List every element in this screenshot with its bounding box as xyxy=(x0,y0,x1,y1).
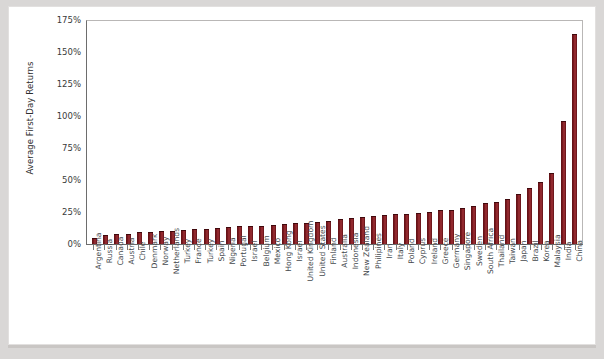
bar-slot xyxy=(524,21,535,244)
x-label-slot: Germany xyxy=(447,251,458,341)
x-label-slot: Russia xyxy=(99,251,110,341)
x-label-slot: Poland xyxy=(402,251,413,341)
bar-slot xyxy=(357,21,368,244)
bar-slot xyxy=(89,21,100,244)
bar xyxy=(393,214,398,244)
bar-slot xyxy=(468,21,479,244)
bar-slot xyxy=(390,21,401,244)
x-label-slot: Belgium xyxy=(256,251,267,341)
x-tick-label: China xyxy=(575,240,584,262)
x-label-slot: Spain xyxy=(211,251,222,341)
x-label-slot: Italy xyxy=(390,251,401,341)
chart-card: Average First-Day Returns 175%150%125%10… xyxy=(8,6,596,345)
bar-slot xyxy=(167,21,178,244)
bar-slot xyxy=(491,21,502,244)
x-label-slot: Philipines xyxy=(368,251,379,341)
bar-slot xyxy=(189,21,200,244)
bar-slot xyxy=(100,21,111,244)
x-axis-tick-labels: ArgentinaRussiaCanadaAustriaChileDenmark… xyxy=(86,251,583,341)
bar-slot xyxy=(457,21,468,244)
bar-slot xyxy=(502,21,513,244)
x-label-slot: United Kingdom xyxy=(301,251,312,341)
bar-slot xyxy=(256,21,267,244)
bar-slot xyxy=(413,21,424,244)
y-tick-label: 100% xyxy=(37,112,81,120)
x-label-slot: Taiwan xyxy=(503,251,514,341)
x-label-slot: Sweden xyxy=(469,251,480,341)
bar-slot xyxy=(268,21,279,244)
y-tick-label: 150% xyxy=(37,48,81,56)
bar-slot xyxy=(546,21,557,244)
x-label-slot: Singapore xyxy=(458,251,469,341)
bar xyxy=(549,173,554,244)
y-tick-label: 50% xyxy=(37,176,81,184)
bar-slot xyxy=(145,21,156,244)
bar-slot xyxy=(279,21,290,244)
bar-slot xyxy=(334,21,345,244)
x-label-slot: Denmark xyxy=(144,251,155,341)
x-label-slot: Israel xyxy=(290,251,301,341)
bar-slot xyxy=(424,21,435,244)
bar-slot xyxy=(379,21,390,244)
x-label-slot: Argentina xyxy=(88,251,99,341)
x-label-slot: Australia xyxy=(334,251,345,341)
bar-slot xyxy=(234,21,245,244)
bar-slot xyxy=(569,21,580,244)
bar-slot xyxy=(201,21,212,244)
bar-slot xyxy=(122,21,133,244)
x-label-slot: India xyxy=(559,251,570,341)
bar-slot xyxy=(446,21,457,244)
bar-slot xyxy=(479,21,490,244)
x-label-slot: Brazil xyxy=(525,251,536,341)
bar-slot xyxy=(212,21,223,244)
bar-slot xyxy=(513,21,524,244)
x-label-slot: China xyxy=(570,251,581,341)
y-tick-label: 0% xyxy=(37,240,81,248)
bar-slot xyxy=(368,21,379,244)
x-label-slot: France xyxy=(189,251,200,341)
bar-slot xyxy=(346,21,357,244)
bar-series xyxy=(87,21,582,244)
x-label-slot: South Africa xyxy=(480,251,491,341)
bar-slot xyxy=(323,21,334,244)
bar-slot xyxy=(111,21,122,244)
y-tick-label: 125% xyxy=(37,80,81,88)
x-label-slot: Korea xyxy=(536,251,547,341)
x-label-slot: New Zealand xyxy=(357,251,368,341)
bar-slot xyxy=(245,21,256,244)
y-tick-label: 175% xyxy=(37,16,81,24)
bar-slot xyxy=(301,21,312,244)
x-label-slot: Canada xyxy=(110,251,121,341)
x-label-slot: Japan xyxy=(514,251,525,341)
bar-slot xyxy=(312,21,323,244)
bar-slot xyxy=(535,21,546,244)
x-label-slot: Cyprus xyxy=(413,251,424,341)
x-label-slot: Austria xyxy=(122,251,133,341)
bar xyxy=(527,188,532,244)
y-tick-label: 75% xyxy=(37,144,81,152)
bar-slot xyxy=(178,21,189,244)
x-label-slot: Mexico xyxy=(267,251,278,341)
bar-slot xyxy=(558,21,569,244)
x-label-slot: Finland xyxy=(323,251,334,341)
bar-slot xyxy=(134,21,145,244)
x-label-slot: Hong Kong xyxy=(278,251,289,341)
x-label-slot: Ireland xyxy=(424,251,435,341)
bar xyxy=(516,194,521,244)
x-label-slot: Portugal xyxy=(234,251,245,341)
x-label-slot: Thailand xyxy=(491,251,502,341)
bar-slot xyxy=(435,21,446,244)
x-label-slot: United States xyxy=(312,251,323,341)
y-axis-tick-labels: 175%150%125%100%75%50%25%0% xyxy=(35,7,81,344)
x-label-slot: Israel xyxy=(245,251,256,341)
x-label-slot: Indonesia xyxy=(346,251,357,341)
x-label-slot: Greece xyxy=(435,251,446,341)
x-label-slot: Turkey xyxy=(178,251,189,341)
bar-slot xyxy=(223,21,234,244)
y-tick-label: 25% xyxy=(37,208,81,216)
bar xyxy=(538,182,543,244)
bar xyxy=(572,34,577,244)
x-label-slot: Netherlands xyxy=(166,251,177,341)
x-label-slot: Nigeria xyxy=(222,251,233,341)
x-label-slot: Norway xyxy=(155,251,166,341)
